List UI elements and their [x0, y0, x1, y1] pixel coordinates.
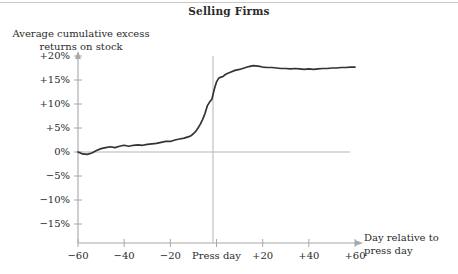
x-tick-label: +60: [320, 250, 390, 261]
y-tick-label: +10%: [22, 98, 70, 109]
plot-area: [0, 0, 458, 274]
y-tick-label: +5%: [22, 122, 70, 133]
y-tick-label: −5%: [22, 170, 70, 181]
y-tick-label: 0%: [22, 146, 70, 157]
y-tick-label: −10%: [22, 194, 70, 205]
y-tick-label: +15%: [22, 74, 70, 85]
x-axis-arrow-icon: [355, 240, 363, 246]
y-tick-label: +20%: [22, 50, 70, 61]
data-series-line: [78, 66, 355, 155]
axes-group: [75, 51, 363, 246]
y-tick-label: −15%: [22, 218, 70, 229]
figure-container: Selling Firms Average cumulative excess …: [0, 0, 458, 274]
y-axis-arrow-icon: [75, 51, 81, 59]
